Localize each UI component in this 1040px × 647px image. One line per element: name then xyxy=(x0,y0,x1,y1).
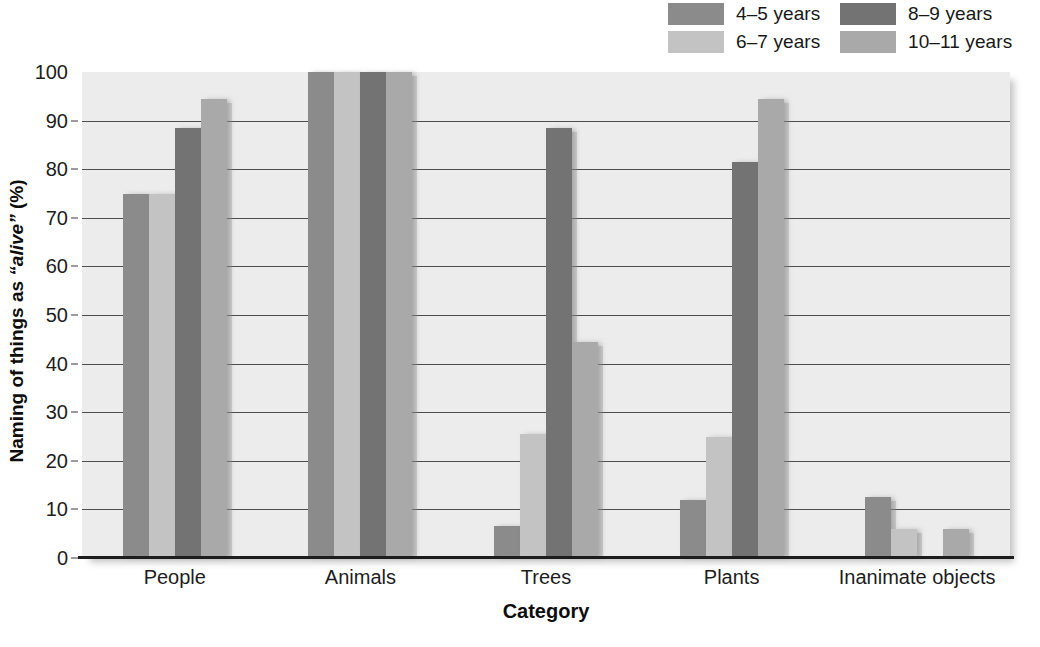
plot-inner xyxy=(82,72,1010,558)
y-tick-label-80: 80 xyxy=(46,158,68,181)
y-tick-label-40: 40 xyxy=(46,352,68,375)
x-tick-label-plants: Plants xyxy=(704,566,760,589)
bar-animals-10-11-years[interactable] xyxy=(386,72,412,558)
y-tick-label-100: 100 xyxy=(35,61,68,84)
y-tick-mark-90 xyxy=(71,120,78,121)
bar-people-10-11-years[interactable] xyxy=(201,99,227,558)
legend-item-4-5-years[interactable]: 4–5 years xyxy=(668,1,832,27)
bar-inanimate-objects-6-7-years[interactable] xyxy=(891,529,917,558)
bar-plants-4-5-years[interactable] xyxy=(680,500,706,558)
y-tick-label-10: 10 xyxy=(46,498,68,521)
y-tick-mark-40 xyxy=(71,363,78,364)
legend-label-6-7-years: 6–7 years xyxy=(736,31,820,53)
legend-swatch-icon-6-7-years xyxy=(668,31,724,53)
y-tick-mark-50 xyxy=(71,315,78,316)
bar-trees-6-7-years[interactable] xyxy=(520,434,546,558)
bar-people-8-9-years[interactable] xyxy=(175,128,201,558)
bar-group-plants xyxy=(639,72,825,558)
y-tick-label-50: 50 xyxy=(46,304,68,327)
x-tick-label-trees: Trees xyxy=(521,566,571,589)
y-axis-title-emphasis: “alive” xyxy=(6,214,27,275)
y-tick-label-60: 60 xyxy=(46,255,68,278)
legend-item-8-9-years[interactable]: 8–9 years xyxy=(840,1,1004,27)
legend-label-8-9-years: 8–9 years xyxy=(908,3,992,25)
y-tick-mark-20 xyxy=(71,460,78,461)
x-axis-baseline xyxy=(78,556,1014,559)
bar-people-4-5-years[interactable] xyxy=(123,194,149,559)
y-tick-mark-70 xyxy=(71,217,78,218)
legend-label-4-5-years: 4–5 years xyxy=(736,3,820,25)
legend-item-10-11-years[interactable]: 10–11 years xyxy=(840,29,1004,55)
bar-plants-8-9-years[interactable] xyxy=(732,162,758,558)
y-tick-mark-30 xyxy=(71,412,78,413)
x-tick-label-animals: Animals xyxy=(325,566,396,589)
legend-swatch-icon-10-11-years xyxy=(840,31,896,53)
plot-area xyxy=(82,72,1010,558)
bar-animals-4-5-years[interactable] xyxy=(308,72,334,558)
chart-legend: 4–5 years 8–9 years 6–7 years 10–11 year… xyxy=(668,0,1040,56)
x-tick-label-inanimate-objects: Inanimate objects xyxy=(839,566,996,589)
y-tick-label-70: 70 xyxy=(46,206,68,229)
legend-swatch-icon-8-9-years xyxy=(840,3,896,25)
y-tick-mark-80 xyxy=(71,169,78,170)
y-tick-label-20: 20 xyxy=(46,449,68,472)
y-axis-title-pre: Naming of things as xyxy=(6,276,27,463)
bar-people-6-7-years[interactable] xyxy=(149,194,175,559)
y-tick-label-0: 0 xyxy=(57,547,68,570)
y-tick-mark-60 xyxy=(71,266,78,267)
y-axis-title: Naming of things as “alive” (%) xyxy=(6,111,28,531)
x-tick-label-people: People xyxy=(144,566,206,589)
bar-trees-4-5-years[interactable] xyxy=(494,526,520,558)
y-axis-title-post: (%) xyxy=(6,180,27,215)
bar-inanimate-objects-4-5-years[interactable] xyxy=(865,497,891,558)
y-tick-label-30: 30 xyxy=(46,401,68,424)
x-axis-tick-labels: PeopleAnimalsTreesPlantsInanimate object… xyxy=(82,566,1010,598)
bar-group-animals xyxy=(268,72,454,558)
y-tick-mark-0 xyxy=(71,558,78,559)
bar-plants-10-11-years[interactable] xyxy=(758,99,784,558)
bar-plants-6-7-years[interactable] xyxy=(706,437,732,559)
bar-group-people xyxy=(82,72,268,558)
bar-animals-8-9-years[interactable] xyxy=(360,72,386,558)
bar-trees-10-11-years[interactable] xyxy=(572,342,598,558)
x-axis-title: Category xyxy=(82,600,1010,623)
legend-item-6-7-years[interactable]: 6–7 years xyxy=(668,29,832,55)
legend-label-10-11-years: 10–11 years xyxy=(908,31,1012,53)
y-tick-label-90: 90 xyxy=(46,109,68,132)
legend-swatch-icon-4-5-years xyxy=(668,3,724,25)
bar-group-trees xyxy=(453,72,639,558)
bar-group-inanimate-objects xyxy=(824,72,1010,558)
y-tick-mark-10 xyxy=(71,509,78,510)
bar-trees-8-9-years[interactable] xyxy=(546,128,572,558)
bar-inanimate-objects-10-11-years[interactable] xyxy=(943,529,969,558)
bar-chart-figure: 4–5 years 8–9 years 6–7 years 10–11 year… xyxy=(0,0,1040,647)
bar-animals-6-7-years[interactable] xyxy=(334,72,360,558)
